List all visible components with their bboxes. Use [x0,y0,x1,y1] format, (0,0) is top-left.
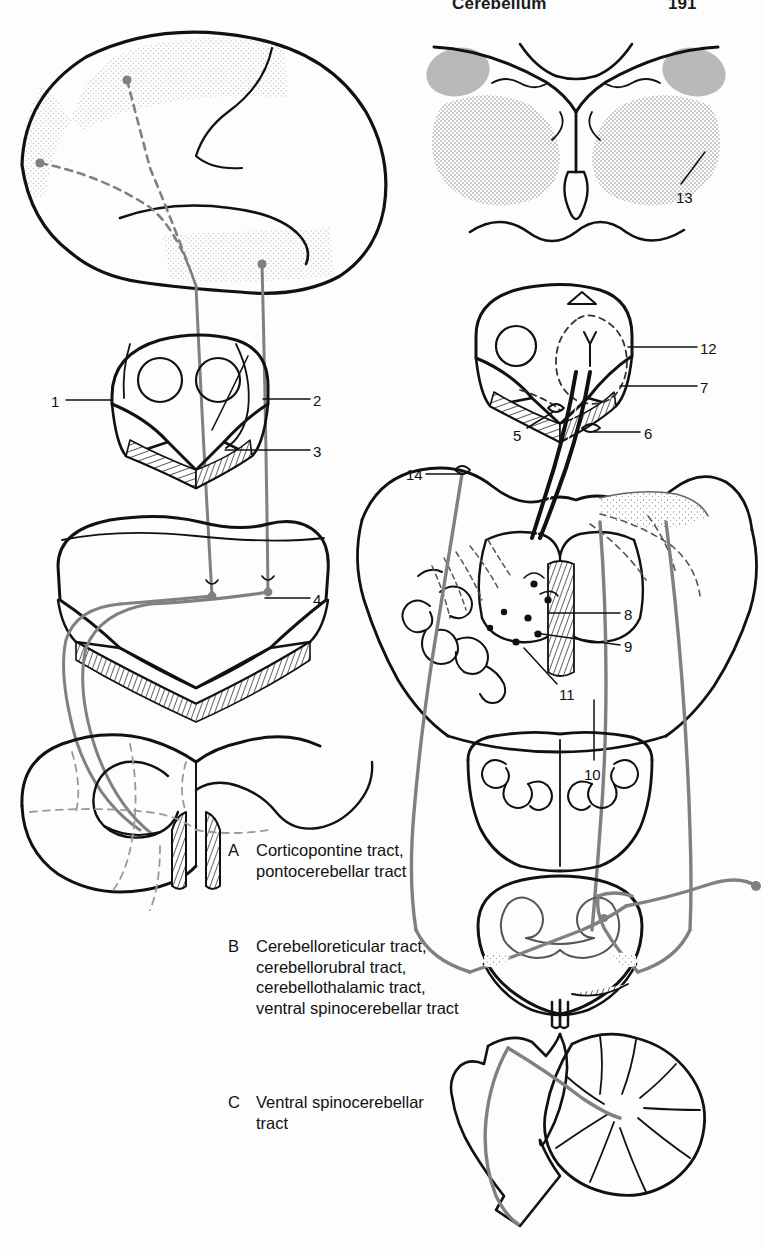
pontine-neuron-1 [530,580,537,587]
figure-page: Cerebellum 191 [0,0,763,1250]
gray-horn-right [560,904,619,958]
pontine-neuron-6 [501,609,507,615]
midbrain-internal-line-left [124,344,130,398]
folium-2 [622,1040,636,1094]
cord-ventral-hatch [572,984,628,996]
folium-3 [640,1064,676,1098]
cord-gray-matter [501,897,619,958]
label-number-9: 9 [624,639,632,654]
median-raphe [548,561,574,676]
pontine-neuron-5 [512,638,519,645]
cerebral-hemisphere-panel [22,32,386,293]
caption-C: CVentral spinocerebellar tract [228,1092,424,1133]
cerebellum-left-outline [357,520,448,736]
brainstem-outline [451,1046,560,1226]
red-nucleus-left [138,358,182,402]
cerebellothalamic-tract-black [540,372,590,538]
label-number-14: 14 [406,467,423,482]
rubral-neuron-dendrites [584,332,596,344]
medulla-section-left-panel [22,735,372,910]
label-number-11: 11 [559,687,575,702]
medulla-dashed-6 [182,762,186,812]
dentate-fold-5 [480,666,505,703]
label-number-10: 10 [584,767,601,782]
sagittal-spinocerebellar-tract [485,1048,518,1224]
label-number-5: 5 [513,428,521,443]
dentate-fold-2 [422,630,458,664]
label-number-7: 7 [700,380,708,395]
olive-r-left-2 [503,784,532,808]
label-number-3: 3 [313,444,321,459]
dentate-fold-6 [418,570,442,576]
pons-basilar-hatch [76,642,310,722]
label-number-1: 1 [51,394,59,409]
medulla-r-left [468,760,520,866]
cord-speckle-right [610,952,636,967]
pontine-neuron-3 [524,614,531,621]
red-nucleus-r-left [496,326,536,366]
folium-4 [644,1108,700,1110]
caption-text-B: Cerebelloreticular tract, cerebellorubra… [256,936,459,1018]
label-number-8: 8 [624,607,632,622]
olive-inner [104,826,160,835]
cord-fiber-arc [598,893,632,896]
medulla-right-edge [318,762,372,828]
anatomical-figure [0,0,763,1250]
label-number-6: 6 [644,426,652,441]
caption-B: BCerebelloreticular tract, cerebellorubr… [228,936,459,1018]
crus-cerebri-left [126,440,196,488]
fornix-body [556,76,596,79]
pontine-neuron-7 [487,625,493,631]
pons-section-left-panel [58,516,328,722]
folium-8 [556,1114,608,1148]
cord-synapse-1 [600,914,608,922]
medulla-dashed-5 [150,846,160,910]
olive-r-right-1 [611,760,638,788]
peduncle-speckle-right [598,492,708,528]
diencephalon-section-panel [422,42,731,241]
spinal-cord-section-panel [470,876,761,1028]
pontine-terminal-2 [264,588,273,597]
midbrain-internal-line-right2 [212,356,248,430]
caption-text-A: Corticopontine tract, pontocerebellar tr… [256,840,406,881]
label-number-4: 4 [313,592,321,607]
caption-letter-C: C [228,1092,240,1113]
caption-letter-A: A [228,840,239,861]
medulla-r-right [600,760,652,866]
brainstem-top-notch [488,1034,560,1056]
pontine-neuron-2 [544,596,551,603]
cerebellum-outline-top-left [22,735,320,806]
red-nucleus-right [196,358,240,402]
medulla-section-right-panel [468,732,652,871]
cerebellum-body-outline [545,1034,705,1195]
hypothalamic-base [470,222,684,241]
sulcus-branch [196,156,242,168]
label-number-12: 12 [700,341,717,356]
aqueduct-marker [568,292,596,304]
caption-letter-B: B [228,936,239,957]
third-ventricle-lumen [564,172,587,219]
label-number-13: 13 [676,190,693,205]
dorsal-horn-left [508,897,543,938]
olive-r-left-1 [482,760,509,788]
dentate-nucleus-group [402,570,505,703]
thalamus-right [592,95,720,205]
pontocerebellar-descending-1 [64,604,140,830]
ventral-spinocerebellar-left [411,474,462,930]
folium-1 [600,1036,602,1094]
neuron-process-1 [524,573,544,578]
cortical-neuron-soma-3 [257,259,266,268]
cerebellum-sagittal-panel [451,1034,705,1226]
pons-upper-internal [62,533,324,541]
choroid-plexus-right [606,79,660,87]
folium-6 [620,1128,646,1192]
cortical-neuron-soma-2 [35,158,44,167]
folium-7 [590,1122,614,1182]
folium-5 [638,1118,690,1158]
raphe-hatch [172,812,186,889]
corticopontine-fiber-1 [196,286,212,596]
thalamus-left [432,95,560,205]
gray-tract-into-cord-right [638,930,690,972]
medulla-dashed-1 [30,809,196,830]
midbrain-section-right-panel [476,284,632,442]
